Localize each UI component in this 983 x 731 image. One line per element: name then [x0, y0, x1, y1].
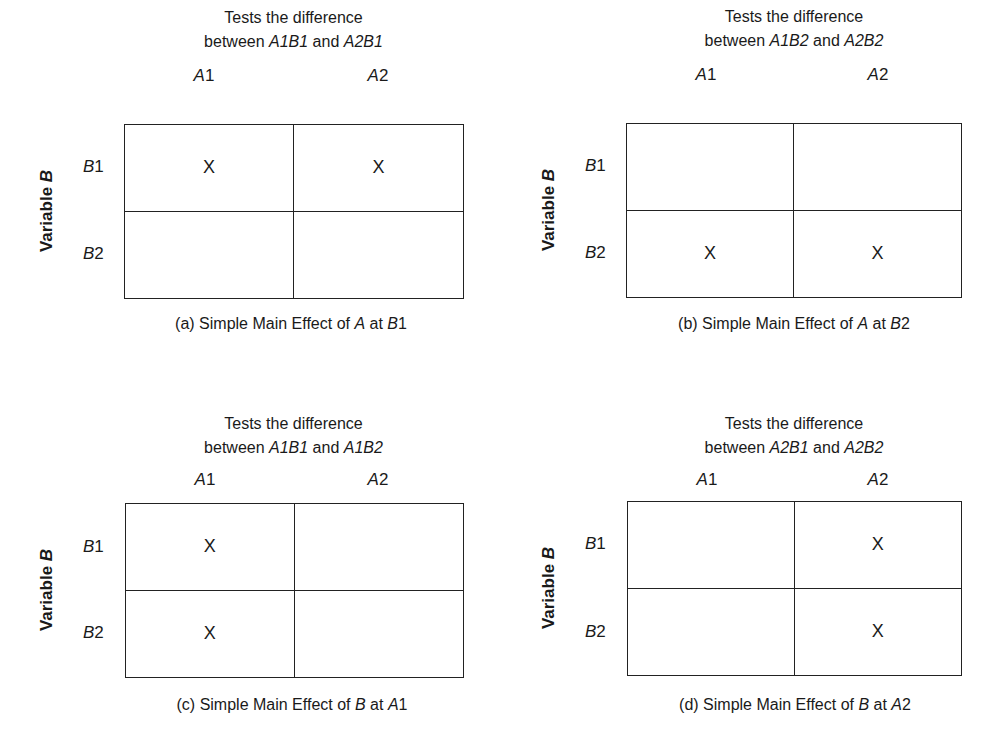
cell-a2b2: X — [794, 211, 961, 298]
row-label-b1: B1 — [585, 534, 606, 554]
design-grid: X X — [626, 123, 962, 298]
cell-a2b2 — [295, 591, 464, 678]
design-grid: X X — [124, 124, 464, 299]
cell-a1b1 — [627, 124, 794, 211]
cell-a2b1: X — [795, 502, 962, 589]
column-label-a1: A1 — [195, 470, 216, 490]
column-label-a1: A1 — [696, 65, 717, 85]
header-line-1: Tests the difference — [626, 412, 962, 436]
header-line-2: between A1B1 and A1B2 — [124, 436, 463, 460]
cell-a1b2 — [628, 589, 795, 676]
column-label-a2: A2 — [368, 66, 389, 86]
row-label-b2: B2 — [83, 244, 104, 264]
panel-b-caption: (b) Simple Main Effect of A at B2 — [678, 315, 910, 333]
panel-d-header: Tests the difference between A2B1 and A2… — [626, 412, 962, 460]
column-label-a1: A1 — [194, 66, 215, 86]
header-line-1: Tests the difference — [124, 412, 463, 436]
cell-a1b1: X — [126, 504, 295, 591]
column-label-a2: A2 — [868, 470, 889, 490]
panel-c-header: Tests the difference between A1B1 and A1… — [124, 412, 463, 460]
panel-d-caption: (d) Simple Main Effect of B at A2 — [679, 696, 911, 714]
row-variable-label: Variable B — [37, 170, 57, 252]
cell-a1b1: X — [125, 125, 294, 212]
panel-a-header: Tests the difference between A1B1 and A2… — [124, 6, 463, 54]
column-label-a2: A2 — [868, 65, 889, 85]
cell-a1b2: X — [627, 211, 794, 298]
header-line-2: between A1B2 and A2B2 — [626, 29, 962, 53]
header-line-2: between A2B1 and A2B2 — [626, 436, 962, 460]
row-label-b1: B1 — [83, 157, 104, 177]
panel-c-caption: (c) Simple Main Effect of B at A1 — [177, 696, 408, 714]
cell-a1b2: X — [126, 591, 295, 678]
cell-a2b1 — [295, 504, 464, 591]
cell-a2b2: X — [795, 589, 962, 676]
row-label-b2: B2 — [585, 622, 606, 642]
row-label-b1: B1 — [585, 156, 606, 176]
row-label-b2: B2 — [585, 243, 606, 263]
header-line-1: Tests the difference — [124, 6, 463, 30]
design-grid: X X — [627, 501, 962, 676]
row-label-b1: B1 — [83, 537, 104, 557]
header-line-1: Tests the difference — [626, 5, 962, 29]
cell-a2b2 — [294, 212, 463, 299]
row-variable-label: Variable B — [37, 549, 57, 631]
cell-a2b1 — [794, 124, 961, 211]
row-variable-label: Variable B — [539, 547, 559, 629]
cell-a2b1: X — [294, 125, 463, 212]
design-grid: X X — [125, 503, 464, 678]
panel-a-caption: (a) Simple Main Effect of A at B1 — [175, 315, 407, 333]
column-label-a1: A1 — [697, 470, 718, 490]
cell-a1b2 — [125, 212, 294, 299]
column-label-a2: A2 — [368, 470, 389, 490]
row-variable-label: Variable B — [539, 169, 559, 251]
row-label-b2: B2 — [83, 623, 104, 643]
panel-b-header: Tests the difference between A1B2 and A2… — [626, 5, 962, 53]
header-line-2: between A1B1 and A2B1 — [124, 30, 463, 54]
cell-a1b1 — [628, 502, 795, 589]
